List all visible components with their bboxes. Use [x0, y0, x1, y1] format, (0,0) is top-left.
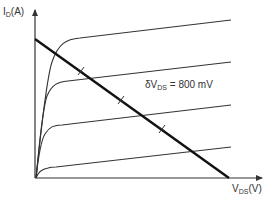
curve-4: [36, 147, 231, 178]
iv-characteristics-plot: [0, 0, 280, 201]
curve-1: [36, 20, 231, 178]
x-axis-label: VDS(V): [232, 184, 262, 195]
delta-vds-annotation: δVDS = 800 mV: [145, 80, 213, 91]
curve-3: [36, 105, 231, 178]
y-axis-label: ID(A): [3, 7, 24, 18]
